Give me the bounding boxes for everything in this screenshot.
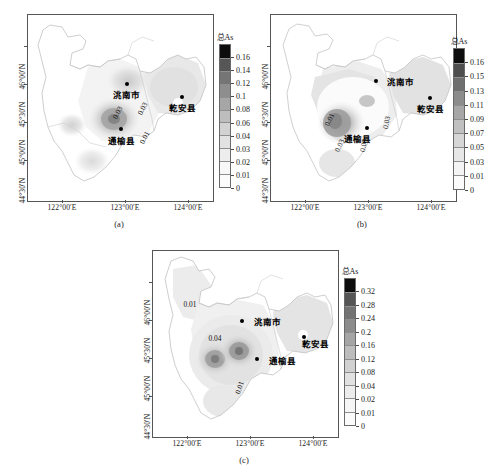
x-axis-label: 124°00′E <box>173 203 202 212</box>
colorbar-tick <box>231 70 234 71</box>
colorbar-segment <box>220 71 230 84</box>
colorbar-b: 总As 0.160.150.130.110.090.070.050.030.01… <box>453 48 465 190</box>
city-label-qianan: 乾安县 <box>169 101 196 113</box>
colorbar-title: 总As <box>451 35 468 46</box>
colorbar-tick <box>465 176 468 177</box>
x-axis-label: 122°00′E <box>47 203 76 212</box>
x-axis-label: 123°00′E <box>110 203 139 212</box>
x-axis-label: 122°00′E <box>290 203 319 212</box>
colorbar-strip <box>219 44 231 188</box>
y-axis-label: 45°30′N <box>18 102 27 128</box>
city-dot-taonan <box>374 79 378 83</box>
colorbar-tick <box>465 91 468 92</box>
city-dot-qianan <box>180 95 184 99</box>
contour-label: 0.04 <box>209 334 222 343</box>
y-axis-label: 45°00′N <box>143 376 152 402</box>
colorbar-tick-label: 0.12 <box>361 354 375 363</box>
colorbar-segment <box>454 105 464 119</box>
colorbar-segment <box>345 372 355 385</box>
colorbar-tick <box>231 83 234 84</box>
colorbar-segment <box>454 119 464 133</box>
panel-c: 洮南市 乾安县 通榆县 0.01 0.04 0.01 122°00′E 123°… <box>110 240 410 476</box>
colorbar-tick <box>465 76 468 77</box>
x-axis-label: 123°00′E <box>353 203 382 212</box>
y-axis-label: 44°30′N <box>18 178 27 204</box>
y-axis-label: 45°30′N <box>261 102 270 128</box>
colorbar-segment <box>454 49 464 63</box>
colorbar-segment <box>345 359 355 372</box>
city-dot-taonan <box>240 319 244 323</box>
colorbar-tick <box>465 105 468 106</box>
colorbar-segment <box>345 345 355 358</box>
colorbar-tick-label: 0 <box>361 422 365 431</box>
colorbar-segment <box>454 147 464 161</box>
colorbar-segment <box>220 174 230 187</box>
x-axis-label: 124°00′E <box>416 203 445 212</box>
city-dot-tongyu <box>365 126 369 130</box>
colorbar-segment <box>454 175 464 189</box>
colorbar-tick <box>465 190 468 191</box>
colorbar-segment <box>220 161 230 174</box>
city-label-tongyu: 通榆县 <box>108 134 135 146</box>
colorbar-tick <box>231 123 234 124</box>
colorbar-segment <box>220 110 230 123</box>
colorbar-title: 总As <box>217 31 234 42</box>
colorbar-tick <box>465 62 468 63</box>
colorbar-segment <box>220 58 230 71</box>
colorbar-tick <box>356 413 359 414</box>
panel-a: 洮南市 乾安县 通榆县 0.03 0.03 0.01 122°00′E 123°… <box>0 0 248 240</box>
colorbar-segment <box>220 122 230 135</box>
colorbar-tick <box>231 109 234 110</box>
x-axis-label: 124°00′E <box>298 439 327 448</box>
map-frame-b: 洮南市 乾安县 通榆县 0.01 0.03 0.09 0.03 <box>270 14 457 202</box>
colorbar-tick <box>356 345 359 346</box>
colorbar-tick-label: 0.11 <box>470 100 484 109</box>
colorbar-tick <box>356 305 359 306</box>
colorbar-tick-label: 0.02 <box>361 395 375 404</box>
colorbar-segment <box>345 306 355 319</box>
colorbar-tick <box>356 332 359 333</box>
colorbar-tick <box>231 149 234 150</box>
colorbar-segment <box>454 161 464 175</box>
city-dot-qianan <box>428 96 432 100</box>
colorbar-tick-label: 0.01 <box>470 171 484 180</box>
colorbar-tick <box>465 162 468 163</box>
colorbar-tick-label: 0.03 <box>470 157 484 166</box>
colorbar-segment <box>345 398 355 411</box>
y-axis-label: 46°00′N <box>18 64 27 90</box>
city-dot-tongyu <box>119 127 123 131</box>
colorbar-tick-label: 0.15 <box>470 72 484 81</box>
colorbar-tick <box>356 318 359 319</box>
colorbar-segment <box>345 332 355 345</box>
colorbar-segment <box>345 412 355 425</box>
colorbar-tick-label: 0.01 <box>361 408 375 417</box>
y-axis-label: 45°00′N <box>18 140 27 166</box>
colorbar-segment <box>220 148 230 161</box>
colorbar-segment <box>345 319 355 332</box>
colorbar-segment <box>454 63 464 77</box>
city-dot-tongyu <box>255 357 259 361</box>
colorbar-tick <box>356 426 359 427</box>
colorbar-segment <box>345 279 355 292</box>
panel-caption-b: (b) <box>357 219 367 229</box>
colorbar-tick-label: 0.28 <box>361 300 375 309</box>
y-axis-label: 44°30′N <box>143 414 152 440</box>
city-label-tongyu: 通榆县 <box>269 354 296 366</box>
colorbar-tick-label: 0.1 <box>236 92 246 101</box>
colorbar-segment <box>345 385 355 398</box>
colorbar-tick-label: 0.04 <box>361 381 375 390</box>
colorbar-tick <box>356 386 359 387</box>
colorbar-tick <box>465 133 468 134</box>
colorbar-tick <box>465 147 468 148</box>
colorbar-tick <box>231 162 234 163</box>
colorbar-tick-label: 0 <box>236 184 240 193</box>
colorbar-segment <box>454 91 464 105</box>
colorbar-a: 总As 0.160.140.120.10.080.060.040.030.020… <box>219 44 231 188</box>
city-label-qianan: 乾安县 <box>417 102 444 114</box>
colorbar-segment <box>454 77 464 91</box>
colorbar-tick <box>465 119 468 120</box>
colorbar-segment <box>220 135 230 148</box>
colorbar-segment <box>454 133 464 147</box>
x-axis-label: 123°00′E <box>235 439 264 448</box>
city-dot-taonan <box>125 82 129 86</box>
